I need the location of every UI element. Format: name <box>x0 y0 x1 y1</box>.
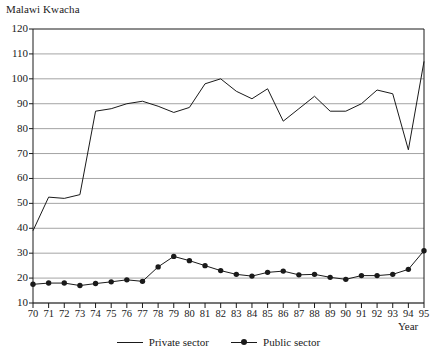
data-point-marker <box>390 272 395 277</box>
legend-item: Private sector <box>117 336 209 348</box>
chart-figure: Malawi Kwacha Year 102030405060708090100… <box>0 0 437 360</box>
data-point-marker <box>312 272 317 277</box>
data-point-marker <box>155 264 160 269</box>
data-point-marker <box>124 277 129 282</box>
data-point-marker <box>187 258 192 263</box>
data-point-marker <box>109 279 114 284</box>
data-point-marker <box>296 272 301 277</box>
data-point-marker <box>202 263 207 268</box>
legend-line-icon <box>117 337 143 347</box>
legend-label: Public sector <box>263 336 320 348</box>
data-point-marker <box>281 268 286 273</box>
plot-area <box>0 0 437 360</box>
data-point-marker <box>421 248 426 253</box>
data-point-marker <box>30 282 35 287</box>
series-line-public-sector <box>33 251 424 286</box>
data-point-marker <box>234 272 239 277</box>
data-point-marker <box>359 273 364 278</box>
data-point-marker <box>140 279 145 284</box>
legend-label: Private sector <box>149 336 209 348</box>
data-point-marker <box>62 280 67 285</box>
legend-item: Public sector <box>231 336 320 348</box>
data-point-marker <box>249 273 254 278</box>
legend-line-marker-icon <box>231 337 257 347</box>
data-point-marker <box>406 267 411 272</box>
data-point-marker <box>93 281 98 286</box>
data-point-marker <box>327 275 332 280</box>
data-point-marker <box>343 277 348 282</box>
data-point-marker <box>171 254 176 259</box>
data-point-marker <box>265 270 270 275</box>
data-point-marker <box>77 283 82 288</box>
series-line-private-sector <box>33 61 424 230</box>
chart-legend: Private sectorPublic sector <box>0 336 437 348</box>
data-point-marker <box>374 273 379 278</box>
data-point-marker <box>218 268 223 273</box>
data-point-marker <box>46 280 51 285</box>
